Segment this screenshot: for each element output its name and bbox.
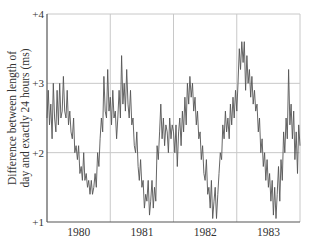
length-of-day-chart: +4+3+2+1 1980198119821983 Difference bet… xyxy=(0,0,311,244)
y-tick-label: +3 xyxy=(32,77,44,89)
chart-canvas: +4+3+2+1 1980198119821983 Difference bet… xyxy=(0,0,311,244)
gridlines xyxy=(47,14,300,222)
y-tick-label: +4 xyxy=(32,8,44,20)
x-tick-label: 1983 xyxy=(257,226,280,238)
x-tick-labels: 1980198119821983 xyxy=(67,226,280,238)
y-tick-label: +2 xyxy=(32,147,44,159)
x-tick-label: 1981 xyxy=(130,226,153,238)
x-tick-label: 1980 xyxy=(67,226,90,238)
x-tick-label: 1982 xyxy=(194,226,217,238)
y-tick-labels: +4+3+2+1 xyxy=(32,8,44,228)
y-axis-label-line-2: day and exactly 24 hours (ms) xyxy=(19,48,32,187)
y-tick-label: +1 xyxy=(32,216,44,228)
y-axis-label-line-1: Difference between length of xyxy=(6,51,19,185)
